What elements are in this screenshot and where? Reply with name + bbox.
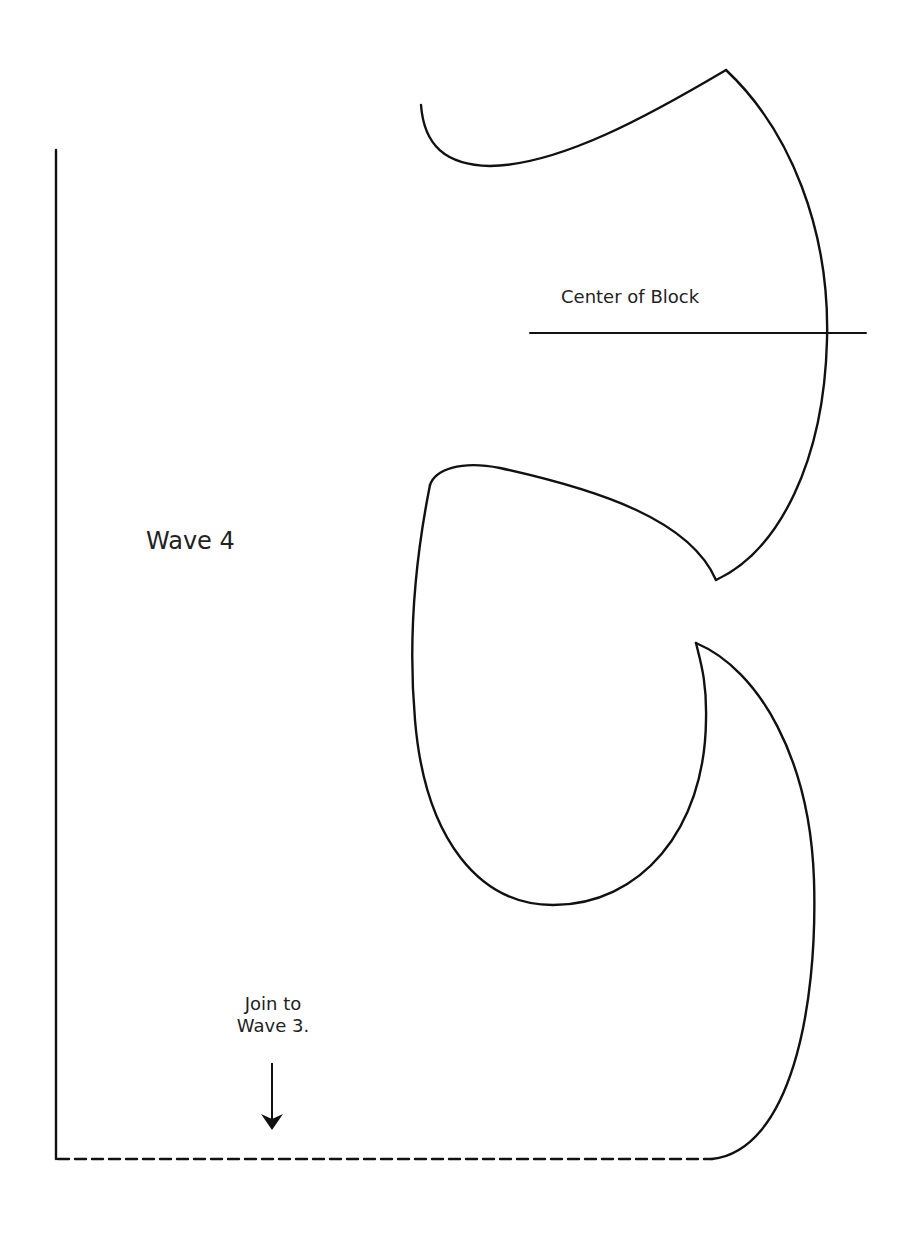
center-of-block-label: Center of Block	[561, 286, 699, 307]
down-arrow-icon	[261, 1063, 283, 1130]
upper-right-arc	[716, 70, 827, 580]
join-note-line1: Join to	[218, 993, 328, 1015]
join-note-line2: Wave 3.	[218, 1015, 328, 1037]
piece-label: Wave 4	[146, 527, 235, 555]
middle-lobe-top	[430, 465, 716, 580]
top-wave-curve	[421, 70, 726, 166]
lower-right-curve	[696, 643, 814, 1159]
pattern-canvas	[0, 0, 915, 1236]
teardrop-lobe	[412, 485, 706, 905]
join-note: Join to Wave 3.	[218, 993, 328, 1037]
